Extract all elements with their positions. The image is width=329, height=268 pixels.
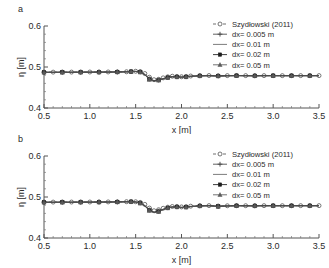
x-tick-label-2: 1.5 [129,111,142,121]
y-tick-label-0: 0.4 [28,103,41,113]
data-point-marker-legend-1 [218,32,223,37]
legend-item-4[interactable]: dx= 0.05 m [213,191,270,200]
data-point-marker-legend-0 [218,152,222,156]
legend-item-2[interactable]: dx= 0.01 m [213,170,270,179]
legend-label-4: dx= 0.05 m [232,191,270,200]
legend-label-3: dx= 0.02 m [232,180,270,189]
legend-item-1[interactable]: dx= 0.005 m [213,30,274,39]
y-tick-label-0: 0.4 [28,233,41,243]
series-line-4 [44,202,319,213]
legend-label-0: Szydłowski (2011) [232,20,294,29]
series-line-3 [44,202,319,213]
legend-label-0: Szydłowski (2011) [232,150,294,159]
legend-item-4[interactable]: dx= 0.05 m [213,61,270,70]
figure-container: a 0.51.01.52.02.53.03.50.40.50.6η [m]x [… [0,0,329,268]
x-tick-label-4: 2.5 [221,241,234,251]
legend-label-3: dx= 0.02 m [232,50,270,59]
data-series-group [42,69,321,82]
legend-label-2: dx= 0.01 m [232,40,270,49]
x-tick-label-2: 1.5 [129,241,142,251]
chart-panel-a: a 0.51.01.52.02.53.03.50.40.50.6η [m]x [… [0,0,329,134]
plot-area-b: 0.51.01.52.02.53.03.50.40.50.6η [m]x [m]… [0,130,329,268]
y-axis-title: η [m] [16,187,26,207]
legend: Szydłowski (2011)dx= 0.005 mdx= 0.01 mdx… [213,20,294,70]
x-tick-label-1: 1.0 [84,241,97,251]
legend-label-1: dx= 0.005 m [232,160,274,169]
legend-label-2: dx= 0.01 m [232,170,270,179]
x-tick-label-5: 3.0 [267,241,280,251]
legend-item-0[interactable]: Szydłowski (2011) [213,20,294,29]
legend-label-1: dx= 0.005 m [232,30,274,39]
legend-item-2[interactable]: dx= 0.01 m [213,40,270,49]
y-tick-label-1: 0.5 [28,62,41,72]
legend-item-3[interactable]: dx= 0.02 m [213,180,270,189]
data-point-marker-legend-3 [218,53,221,56]
x-tick-label-6: 3.5 [313,241,326,251]
y-tick-label-1: 0.5 [28,192,41,202]
y-axis-title: η [m] [16,57,26,77]
legend-item-3[interactable]: dx= 0.02 m [213,50,270,59]
x-tick-label-5: 3.0 [267,111,280,121]
legend-label-4: dx= 0.05 m [232,61,270,70]
chart-panel-b: b 0.51.01.52.02.53.03.50.40.50.6η [m]x [… [0,130,329,264]
x-tick-label-6: 3.5 [313,111,326,121]
legend: Szydłowski (2011)dx= 0.005 mdx= 0.01 mdx… [213,150,294,200]
data-point-marker-legend-3 [218,183,221,186]
x-tick-label-3: 2.0 [175,241,188,251]
data-series-group [42,199,321,213]
legend-item-1[interactable]: dx= 0.005 m [213,160,274,169]
x-tick-label-4: 2.5 [221,111,234,121]
x-tick-label-1: 1.0 [84,111,97,121]
x-axis-title: x [m] [172,255,192,265]
data-point-marker-legend-0 [218,22,222,26]
y-tick-label-2: 0.6 [28,21,41,31]
data-point-marker-legend-1 [218,162,223,167]
x-tick-label-3: 2.0 [175,111,188,121]
plot-area-a: 0.51.01.52.02.53.03.50.40.50.6η [m]x [m]… [0,0,329,134]
legend-item-0[interactable]: Szydłowski (2011) [213,150,294,159]
y-tick-label-2: 0.6 [28,151,41,161]
